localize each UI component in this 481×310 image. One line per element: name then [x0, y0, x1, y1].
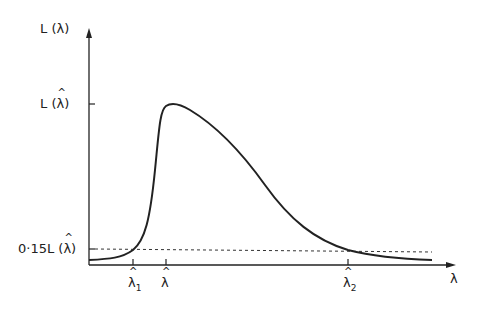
lambda-hat-symbol: λ: [63, 242, 71, 255]
lambda-hat-symbol: λ: [56, 97, 64, 110]
lambda2-label: λ2: [343, 276, 356, 293]
y-axis-arrow-icon: [86, 28, 92, 38]
peak-tick-text: L (: [40, 96, 56, 111]
x-axis-arrow-icon: [446, 262, 456, 268]
y-axis-label: L (λ): [40, 22, 69, 35]
threshold-line: [95, 249, 432, 252]
threshold-tick-text: 0·15L (: [18, 241, 63, 256]
subscript-2: 2: [351, 283, 357, 293]
lambda-hat-symbol: λ: [128, 276, 136, 289]
x-axis-label: λ: [450, 272, 458, 285]
peak-tick-label: L (λ): [40, 97, 69, 110]
plot-area: [0, 0, 481, 310]
threshold-tick-label: 0·15L (λ): [18, 242, 76, 255]
lambda-hat-symbol: λ: [343, 276, 351, 289]
subscript-1: 1: [136, 283, 142, 293]
threshold-tick-close: ): [71, 241, 76, 256]
peak-tick-close: ): [64, 96, 69, 111]
luminance-curve: [89, 104, 432, 260]
lambda-hat-symbol: λ: [161, 276, 169, 289]
lambda-hat-label: λ: [161, 276, 169, 289]
lambda1-label: λ1: [128, 276, 141, 293]
